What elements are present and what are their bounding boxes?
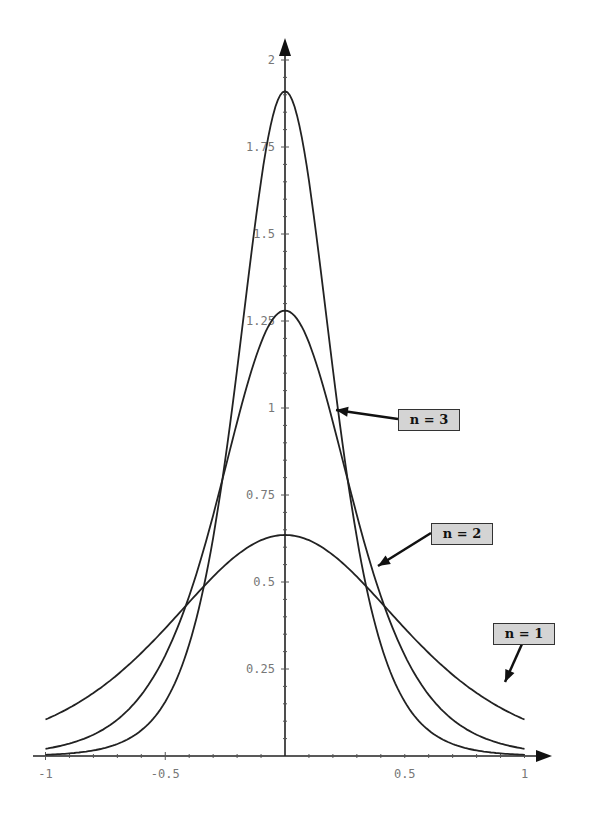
label-n1: n = 1 xyxy=(493,623,555,645)
y-tick-label: 1 xyxy=(268,401,275,415)
y-tick-label: 1.75 xyxy=(246,140,275,154)
label-n2: n = 2 xyxy=(431,523,493,545)
axes xyxy=(33,38,552,762)
x-tick-label: 1 xyxy=(521,767,528,781)
x-tick-label: -1 xyxy=(38,767,52,781)
label-n3: n = 3 xyxy=(398,409,460,431)
y-tick-label: 0.5 xyxy=(253,575,275,589)
chart-plot-area: -1-0.50.510.250.50.7511.251.51.752 xyxy=(0,0,593,820)
y-tick-label: 0.25 xyxy=(246,662,275,676)
x-axis-arrow-icon xyxy=(536,750,552,762)
y-tick-label: 1.5 xyxy=(253,227,275,241)
y-tick-label: 2 xyxy=(268,53,275,67)
y-tick-label: 0.75 xyxy=(246,488,275,502)
x-tick-label: 0.5 xyxy=(394,767,416,781)
arrow-n2-arrowhead-icon xyxy=(378,555,391,566)
y-axis-arrow-icon xyxy=(279,38,291,56)
x-tick-label: -0.5 xyxy=(151,767,180,781)
